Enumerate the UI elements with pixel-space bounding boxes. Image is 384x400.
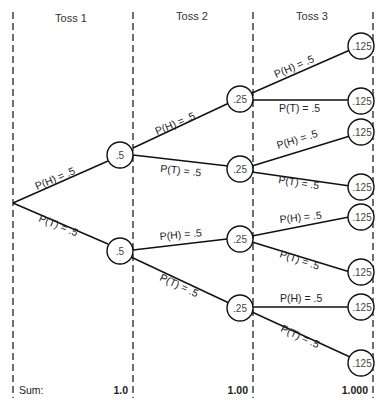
node-value: .125 xyxy=(352,302,372,313)
node-value: .125 xyxy=(352,358,372,369)
probability-tree-diagram: Toss 1 Toss 2 Toss 3 P(H) = .5 P(T) = .5… xyxy=(0,0,384,400)
branch-label-tails: P(T) = .5 xyxy=(278,173,321,191)
node-value: .5 xyxy=(116,150,125,161)
sum-toss-2: 1.00 xyxy=(228,384,249,396)
branch-label-heads: P(H) = .5 xyxy=(159,226,202,242)
branch-label-heads: P(H) = .5 xyxy=(272,52,316,80)
node-value: .25 xyxy=(233,94,247,105)
node-value: .125 xyxy=(352,267,372,278)
sum-toss-1: 1.0 xyxy=(113,384,128,396)
branch-label-tails: P(T) = .5 xyxy=(158,271,200,299)
node-value: .125 xyxy=(352,182,372,193)
node-value: .5 xyxy=(116,246,125,257)
sum-toss-3: 1.000 xyxy=(342,384,368,396)
node-value: .125 xyxy=(352,41,372,52)
node-value: .25 xyxy=(233,234,247,245)
branch-label-heads: P(H) = .5 xyxy=(280,292,322,304)
branch-label-heads: P(H) = .5 xyxy=(279,209,322,225)
sum-label: Sum: xyxy=(19,384,44,396)
branch-label-heads: P(H) = .5 xyxy=(33,164,77,192)
column-header-toss-1: Toss 1 xyxy=(55,12,87,24)
branches xyxy=(13,50,350,357)
node-value: .125 xyxy=(352,96,372,107)
branch-label-tails: P(T) = .5 xyxy=(279,322,321,350)
column-header-toss-2: Toss 2 xyxy=(176,10,208,22)
branch-label-tails: P(T) = .5 xyxy=(278,247,321,271)
node-value: .25 xyxy=(233,303,247,314)
branch-label-heads: P(H) = .5 xyxy=(153,109,197,137)
node-value: .25 xyxy=(233,164,247,175)
node-value: .125 xyxy=(352,127,372,138)
branch-label-tails: P(T) = .5 xyxy=(160,162,202,178)
branch-label-tails: P(T) = .5 xyxy=(279,102,320,114)
column-header-toss-3: Toss 3 xyxy=(296,10,328,22)
node-value: .125 xyxy=(352,212,372,223)
branch-label-tails: P(T) = .5 xyxy=(37,212,80,239)
